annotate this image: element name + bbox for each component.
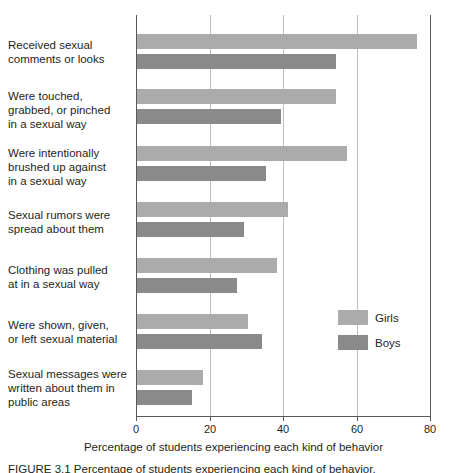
category-label-7: Sexual messages were written about them … xyxy=(8,367,132,409)
tick-mark-20 xyxy=(210,417,211,421)
legend-item-boys[interactable]: Boys xyxy=(338,335,401,350)
bar-boys-3 xyxy=(137,166,266,181)
tick-mark-40 xyxy=(283,417,284,421)
bar-girls-5 xyxy=(137,258,277,273)
bar-boys-7 xyxy=(137,390,192,405)
bar-boys-6 xyxy=(137,334,262,349)
legend-label-girls: Girls xyxy=(375,312,399,324)
tick-label-40: 40 xyxy=(277,423,289,435)
tick-label-60: 60 xyxy=(351,423,363,435)
bar-boys-5 xyxy=(137,278,237,293)
tick-label-0: 0 xyxy=(133,423,139,435)
bar-girls-3 xyxy=(137,146,347,161)
category-label-5-line-2: at in a sexual way xyxy=(8,277,132,291)
bar-girls-4 xyxy=(137,202,288,217)
figure-container: Received sexual comments or looks Were t… xyxy=(0,0,467,473)
category-label-1-line-2: comments or looks xyxy=(8,52,132,66)
category-label-3-line-3: in a sexual way xyxy=(8,174,132,188)
plot-right-border xyxy=(430,15,431,417)
category-label-3-line-1: Were intentionally xyxy=(8,146,132,160)
category-label-4-line-2: spread about them xyxy=(8,222,132,236)
tick-label-80: 80 xyxy=(424,423,436,435)
tick-label-20: 20 xyxy=(204,423,216,435)
category-label-6-line-1: Were shown, given, xyxy=(8,318,132,332)
category-label-2: Were touched, grabbed, or pinched in a s… xyxy=(8,89,132,131)
category-label-3-line-2: brushed up against xyxy=(8,160,132,174)
category-label-4: Sexual rumors were spread about them xyxy=(8,208,132,236)
category-label-6: Were shown, given, or left sexual materi… xyxy=(8,318,132,346)
legend-swatch-boys-icon xyxy=(338,335,368,350)
category-label-7-line-1: Sexual messages were xyxy=(8,367,132,381)
category-label-2-line-2: grabbed, or pinched xyxy=(8,103,132,117)
gridline-60 xyxy=(357,15,358,417)
category-label-5: Clothing was pulled at in a sexual way xyxy=(8,263,132,291)
bar-boys-4 xyxy=(137,222,244,237)
category-label-2-line-1: Were touched, xyxy=(8,89,132,103)
bar-boys-1 xyxy=(137,54,336,69)
bar-girls-1 xyxy=(137,34,417,49)
bar-girls-2 xyxy=(137,89,336,104)
figure-caption: FIGURE 3.1 Percentage of students experi… xyxy=(8,462,467,473)
category-label-4-line-1: Sexual rumors were xyxy=(8,208,132,222)
legend-item-girls[interactable]: Girls xyxy=(338,310,399,325)
tick-mark-0 xyxy=(136,417,137,421)
bar-girls-7 xyxy=(137,370,203,385)
category-label-1: Received sexual comments or looks xyxy=(8,38,132,66)
tick-mark-80 xyxy=(430,417,431,421)
category-label-1-line-1: Received sexual xyxy=(8,38,132,52)
legend-label-boys: Boys xyxy=(375,337,401,349)
category-label-7-line-2: written about them in xyxy=(8,381,132,395)
category-label-5-line-1: Clothing was pulled xyxy=(8,263,132,277)
x-axis-title: Percentage of students experiencing each… xyxy=(0,441,467,453)
bar-girls-6 xyxy=(137,314,248,329)
bar-boys-2 xyxy=(137,109,281,124)
legend-swatch-girls-icon xyxy=(338,310,368,325)
tick-mark-60 xyxy=(357,417,358,421)
category-label-3: Were intentionally brushed up against in… xyxy=(8,146,132,188)
category-label-6-line-2: or left sexual material xyxy=(8,332,132,346)
category-label-7-line-3: public areas xyxy=(8,395,132,409)
category-label-2-line-3: in a sexual way xyxy=(8,117,132,131)
plot-area: Girls Boys 0 20 40 60 80 xyxy=(136,15,431,417)
